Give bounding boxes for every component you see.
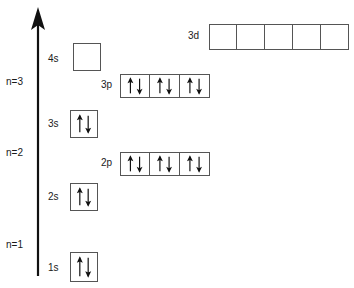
orbital-row-1s bbox=[70, 252, 98, 282]
orbital-label-3d: 3d bbox=[188, 30, 199, 41]
orbital-row-3p bbox=[120, 74, 210, 98]
orbital-row-2p bbox=[120, 152, 210, 176]
orbital-label-2s: 2s bbox=[48, 191, 59, 202]
orbital-box-2p-1[interactable] bbox=[120, 152, 150, 176]
spin-pair-icon bbox=[121, 153, 149, 175]
orbital-label-3p: 3p bbox=[101, 79, 112, 90]
spin-pair-icon bbox=[150, 75, 179, 97]
orbital-box-3d-3[interactable] bbox=[265, 24, 293, 50]
orbital-box-3p-2[interactable] bbox=[150, 74, 180, 98]
orbital-row-3d bbox=[209, 24, 349, 50]
spin-pair-icon bbox=[180, 75, 209, 97]
orbital-box-1s-1[interactable] bbox=[70, 252, 98, 282]
orbital-box-3s-1[interactable] bbox=[70, 110, 98, 138]
orbital-row-3s bbox=[70, 110, 98, 138]
energy-axis-arrowhead bbox=[31, 7, 45, 30]
spin-pair-icon bbox=[150, 153, 179, 175]
spin-pair-icon bbox=[121, 75, 149, 97]
orbital-box-3d-4[interactable] bbox=[293, 24, 321, 50]
orbital-box-3p-1[interactable] bbox=[120, 74, 150, 98]
shell-label-n3: n=3 bbox=[6, 76, 23, 87]
spin-pair-icon bbox=[71, 253, 97, 281]
spin-pair-icon bbox=[180, 153, 209, 175]
orbital-box-4s-1[interactable] bbox=[73, 43, 101, 71]
orbital-label-4s: 4s bbox=[48, 53, 59, 64]
shell-label-n1: n=1 bbox=[6, 239, 23, 250]
orbital-label-1s: 1s bbox=[48, 262, 59, 273]
spin-pair-icon bbox=[71, 111, 97, 137]
orbital-row-2s bbox=[70, 183, 98, 211]
orbital-row-4s bbox=[73, 43, 101, 71]
orbital-box-3d-5[interactable] bbox=[321, 24, 349, 50]
orbital-label-2p: 2p bbox=[101, 157, 112, 168]
orbital-box-3d-2[interactable] bbox=[237, 24, 265, 50]
orbital-box-2p-3[interactable] bbox=[180, 152, 210, 176]
orbital-box-2p-2[interactable] bbox=[150, 152, 180, 176]
orbital-energy-diagram: n=3 n=2 n=1 3d 4s 3p bbox=[0, 0, 354, 288]
orbital-label-3s: 3s bbox=[48, 118, 59, 129]
shell-label-n2: n=2 bbox=[6, 147, 23, 158]
orbital-box-3p-3[interactable] bbox=[180, 74, 210, 98]
spin-pair-icon bbox=[71, 184, 97, 210]
orbital-box-2s-1[interactable] bbox=[70, 183, 98, 211]
orbital-box-3d-1[interactable] bbox=[209, 24, 237, 50]
